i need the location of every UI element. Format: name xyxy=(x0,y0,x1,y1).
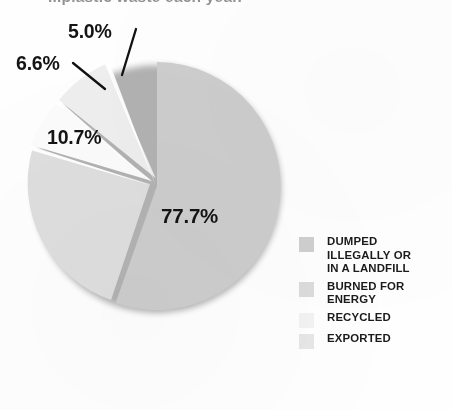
value-label-dumped: 77.7% xyxy=(161,204,218,228)
legend-label-exported-line1: EXPORTED xyxy=(327,332,391,346)
legend-item-exported: EXPORTED xyxy=(299,332,449,349)
legend-label-dumped: DUMPED ILLEGALLY OR IN A LANDFILL xyxy=(327,235,411,276)
legend-label-recycled-line1: RECYCLED xyxy=(327,311,391,325)
chart-canvas: ...plastic waste each year. xyxy=(0,0,452,410)
legend-swatch-burned xyxy=(299,282,314,297)
legend-label-recycled: RECYCLED xyxy=(327,311,391,325)
value-label-recycled: 6.6% xyxy=(16,52,60,75)
legend-item-dumped: DUMPED ILLEGALLY OR IN A LANDFILL xyxy=(299,235,449,276)
legend-label-dumped-line1: DUMPED xyxy=(327,235,411,249)
value-label-burned: 10.7% xyxy=(47,126,101,149)
legend-label-burned: BURNED FOR ENERGY xyxy=(327,280,404,307)
legend-label-exported: EXPORTED xyxy=(327,332,391,346)
legend-swatch-exported xyxy=(299,334,314,349)
legend-label-burned-line2: ENERGY xyxy=(327,293,404,307)
legend-swatch-dumped xyxy=(299,237,314,252)
value-label-exported: 5.0% xyxy=(68,20,112,43)
legend-label-dumped-line3: IN A LANDFILL xyxy=(327,262,411,276)
chart-legend: DUMPED ILLEGALLY OR IN A LANDFILL BURNED… xyxy=(299,235,449,353)
legend-item-burned: BURNED FOR ENERGY xyxy=(299,280,449,307)
legend-swatch-recycled xyxy=(299,313,314,328)
legend-label-burned-line1: BURNED FOR xyxy=(327,280,404,294)
legend-item-recycled: RECYCLED xyxy=(299,311,449,328)
legend-label-dumped-line2: ILLEGALLY OR xyxy=(327,249,411,263)
